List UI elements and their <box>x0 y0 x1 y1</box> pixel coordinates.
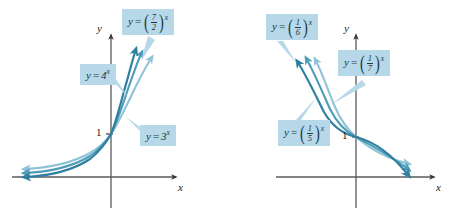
callout-four: y=4x <box>80 64 116 85</box>
callout-one-fifth-denominator: 5 <box>307 133 313 143</box>
callout-seven-halves-eq: = <box>133 15 143 27</box>
callout-one-fifth-fraction: (15) <box>299 124 321 142</box>
decay-panel: y x 1 y=(16)x y=(17)x y=(15)x <box>234 0 468 220</box>
left-paren-icon: ( <box>300 126 305 140</box>
callout-one-sixth-exponent: x <box>309 18 312 27</box>
callout-three: y=3x <box>140 125 176 146</box>
growth-x-axis-label: x <box>178 181 183 193</box>
growth-plot <box>0 0 234 220</box>
callout-one-seventh-denominator: 7 <box>367 63 373 73</box>
leader-one-sixth <box>277 41 297 64</box>
callout-seven-halves: y=(72)x <box>122 9 174 35</box>
callout-three-eq: = <box>151 130 161 142</box>
right-paren-icon: ) <box>315 126 320 140</box>
callout-three-exponent: x <box>167 128 170 137</box>
decay-y-axis-label: y <box>344 22 349 34</box>
decay-x-axis-label: x <box>436 181 441 193</box>
callout-one-sixth-fraction: (16) <box>287 18 309 36</box>
curve-one-seventh <box>297 61 409 176</box>
right-paren-icon: ) <box>303 20 308 34</box>
callout-one-seventh-exponent: x <box>381 54 384 63</box>
left-paren-icon: ( <box>360 56 365 70</box>
callout-one-seventh-eq: = <box>349 56 359 68</box>
right-paren-icon: ) <box>375 56 380 70</box>
callout-one-sixth-numerator: 1 <box>295 18 301 27</box>
callout-seven-halves-numerator: 7 <box>151 13 157 22</box>
callout-one-seventh-fraction: (17) <box>359 54 381 72</box>
callout-one-fifth: y=(15)x <box>278 120 330 146</box>
callout-four-eq: = <box>91 69 101 81</box>
growth-panel: y x 1 y=(72)x y=4x y=3x <box>0 0 234 220</box>
callout-seven-halves-exponent: x <box>165 13 168 22</box>
growth-y-axis-label: y <box>97 22 102 34</box>
leader-one-seventh <box>332 80 366 104</box>
exponential-functions-figure: y x 1 y=(72)x y=4x y=3x <box>0 0 468 220</box>
callout-seven-halves-fraction: (72) <box>143 13 165 31</box>
callout-one-sixth: y=(16)x <box>266 14 318 40</box>
callout-seven-halves-denominator: 2 <box>151 22 157 32</box>
callout-one-sixth-denominator: 6 <box>295 27 301 37</box>
growth-tick-one-label: 1 <box>96 126 102 138</box>
callout-four-exponent: x <box>107 67 110 76</box>
right-paren-icon: ) <box>159 15 164 29</box>
callout-one-fifth-eq: = <box>289 126 299 138</box>
left-paren-icon: ( <box>288 20 293 34</box>
callout-one-seventh-numerator: 1 <box>367 54 373 63</box>
callout-one-sixth-eq: = <box>277 20 287 32</box>
decay-tick-one-label: 1 <box>342 129 348 141</box>
left-paren-icon: ( <box>144 15 149 29</box>
callout-one-fifth-numerator: 1 <box>307 124 313 133</box>
callout-one-seventh: y=(17)x <box>338 50 390 76</box>
callout-one-fifth-exponent: x <box>321 124 324 133</box>
